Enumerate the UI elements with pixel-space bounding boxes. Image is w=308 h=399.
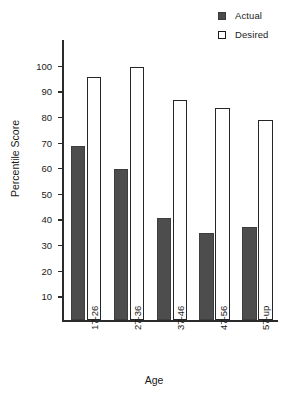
y-tick-label-80: 80 (41, 112, 52, 121)
bar-group (114, 38, 145, 320)
y-tick-label-10: 10 (41, 292, 52, 301)
y-tick-label-50: 50 (41, 189, 52, 198)
bar-group (199, 38, 230, 320)
legend-swatch-desired-icon (218, 31, 226, 39)
y-tick-label-90: 90 (41, 87, 52, 96)
bar-group (157, 38, 188, 320)
bar-desired-27-36 (130, 67, 145, 321)
x-tick-label-17-26: 17-26 (89, 306, 100, 330)
y-tick-60: 60 (58, 168, 62, 169)
x-axis-title: Age (0, 374, 308, 386)
y-tick-label-40: 40 (41, 215, 52, 224)
bar-desired-47-56 (215, 108, 230, 321)
y-tick-70: 70 (58, 143, 62, 144)
y-tick-100: 100 (58, 66, 62, 67)
bar-series-container (64, 40, 278, 320)
legend-item-actual: Actual (218, 8, 268, 23)
bar-desired-37-46 (173, 100, 188, 320)
y-tick-50: 50 (58, 194, 62, 195)
y-axis-title: Percentile Score (9, 120, 21, 197)
bar-actual-37-46 (157, 218, 172, 321)
bar-actual-27-36 (114, 169, 129, 320)
y-tick-80: 80 (58, 117, 62, 118)
legend-swatch-actual-icon (218, 12, 226, 20)
y-tick-label-100: 100 (36, 61, 52, 70)
x-tick-label-37-46: 37-46 (175, 306, 186, 330)
y-tick-label-30: 30 (41, 241, 52, 250)
bar-desired-17-26 (87, 77, 102, 321)
y-tick-label-60: 60 (41, 164, 52, 173)
bar-actual-17-26 (71, 146, 86, 320)
x-tick-label-47-56: 47-56 (218, 306, 229, 330)
bar-actual-47-56 (199, 233, 214, 320)
bar-chart: Actual Desired 102030405060708090100 17-… (0, 0, 308, 399)
y-tick-30: 30 (58, 245, 62, 246)
figure-caption (18, 392, 298, 399)
bar-actual-57-up (242, 227, 257, 321)
y-tick-40: 40 (58, 219, 62, 220)
y-tick-label-70: 70 (41, 138, 52, 147)
y-tick-20: 20 (58, 271, 62, 272)
y-tick-label-20: 20 (41, 266, 52, 275)
y-tick-90: 90 (58, 91, 62, 92)
bar-group (71, 38, 102, 320)
y-tick-10: 10 (58, 296, 62, 297)
x-tick-label-57-up: 57-up (260, 306, 271, 330)
x-tick-label-27-36: 27-36 (132, 306, 143, 330)
bar-desired-57-up (258, 120, 273, 320)
bar-group (242, 38, 273, 320)
legend-label-actual: Actual (235, 11, 262, 21)
plot-area: 102030405060708090100 (62, 40, 278, 322)
